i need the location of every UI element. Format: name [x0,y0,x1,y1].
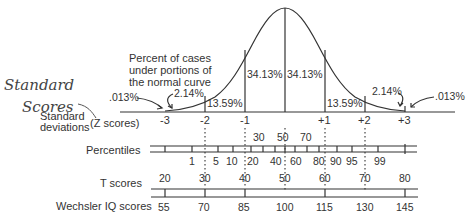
pct-lower-60: 60 [290,155,302,167]
pct-lower-40: 40 [270,155,282,167]
handwritten-note-line1: Standard [4,76,74,94]
z-tick-p1: +1 [318,114,331,126]
iq-70: 70 [198,201,210,213]
pct-lower-99: 99 [374,155,386,167]
iq-label: Wechsler IQ scores [56,200,152,212]
sd-label-2: deviations [40,121,90,133]
pct-upper-50: 50 [277,131,289,143]
arrow-left-tail [137,98,162,108]
iq-55: 55 [158,201,170,213]
pct-lower-1: 1 [189,155,195,167]
z-tick-p3: +3 [398,114,411,126]
t-50: 50 [279,172,291,184]
pct-lower-80: 80 [313,155,325,167]
pct-right-34: 34.13% [287,68,323,80]
pct-upper-30: 30 [253,131,265,143]
t-70: 70 [359,172,371,184]
pct-lower-90: 90 [330,155,342,167]
pct-left-13: 13.59% [207,97,243,109]
z-tick-m2: -2 [200,114,210,126]
pct-right-tail: .013% [435,90,465,102]
pct-left-34: 34.13% [247,68,283,80]
pct-left-tail: .013% [109,91,139,103]
annotation-line1: Percent of cases [129,52,211,64]
t-60: 60 [319,172,331,184]
z-tick-p2: +2 [358,114,371,126]
arrow-right-tail [411,97,434,107]
pct-lower-5: 5 [213,155,219,167]
iq-115: 115 [316,201,333,213]
iq-130: 130 [356,201,374,213]
normal-curve-diagram: 13.59% 34.13% 34.13% 13.59% 2.14% 2.14% … [0,0,470,219]
percentiles-label: Percentiles [86,144,141,156]
sd-label-3: (Z scores) [90,117,140,129]
pct-right-13: 13.59% [327,97,363,109]
arrowhead-icon [157,105,162,109]
iq-145: 145 [396,201,414,213]
pct-lower-20: 20 [247,155,259,167]
t-ticks [165,189,405,197]
t-40: 40 [239,172,251,184]
t-80: 80 [399,172,411,184]
t-20: 20 [159,172,171,184]
pct-lower-95: 95 [346,155,358,167]
z-tick-m3: -3 [160,114,170,126]
annotation-line3: the normal curve [129,76,211,88]
z-tick-m1: -1 [240,114,250,126]
pct-lower-10: 10 [226,155,238,167]
pct-left-2: 2.14% [174,87,204,99]
pct-upper-70: 70 [300,131,312,143]
iq-100: 100 [276,201,294,213]
pct-right-2: 2.14% [372,85,402,97]
t-30: 30 [199,172,211,184]
iq-85: 85 [238,201,250,213]
annotation-line2: under portions of [129,64,212,76]
t-scores-label: T scores [100,177,142,189]
